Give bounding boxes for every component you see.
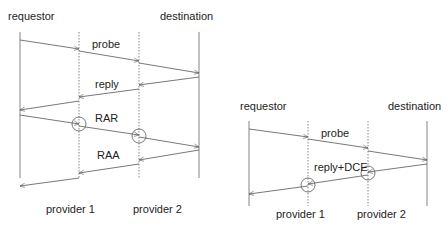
left-rar-arrow-2 <box>79 126 139 135</box>
right-probe-arrow-2 <box>308 139 368 148</box>
right-probe-arrow-1 <box>249 129 308 137</box>
left-rar-arrow-1 <box>20 115 79 124</box>
left-raa-arrow-1 <box>139 150 199 160</box>
left-probe-arrow-2 <box>79 51 139 61</box>
left-provider2-label: provider 2 <box>133 203 182 215</box>
right-probe-arrow-3 <box>368 151 427 160</box>
right-reply-arrow-2 <box>308 175 368 184</box>
left-reply-arrow-1 <box>139 77 199 85</box>
left-diagram: requestor destination probe reply RAR RA… <box>8 10 213 215</box>
left-reply-arrow-2 <box>79 89 139 97</box>
right-provider2-label: provider 2 <box>357 208 406 220</box>
right-requestor-label: requestor <box>240 100 287 112</box>
left-reply-label: reply <box>95 78 119 90</box>
left-probe-arrow-1 <box>20 40 79 49</box>
left-probe-arrow-3 <box>139 63 199 73</box>
right-reply-arrow-1 <box>368 164 427 172</box>
right-probe-label: probe <box>321 127 349 139</box>
left-raa-arrow-3 <box>20 178 79 186</box>
left-probe-label: probe <box>92 38 120 50</box>
left-requestor-label: requestor <box>8 10 55 22</box>
left-raa-arrow-2 <box>79 164 139 173</box>
right-reply-arrow-3 <box>249 186 308 194</box>
sequence-diagrams: requestor destination probe reply RAR RA… <box>0 0 448 233</box>
left-destination-label: destination <box>160 10 213 22</box>
right-diagram: requestor destination probe reply+DCE pr… <box>240 100 441 220</box>
left-rar-label: RAR <box>95 112 118 124</box>
left-raa-label: RAA <box>97 149 120 161</box>
right-provider1-label: provider 1 <box>276 208 325 220</box>
left-provider1-label: provider 1 <box>46 203 95 215</box>
left-reply-arrow-3 <box>20 101 79 110</box>
right-reply-dce-label: reply+DCE <box>314 161 368 173</box>
left-rar-arrow-3 <box>139 137 199 147</box>
right-destination-label: destination <box>388 100 441 112</box>
